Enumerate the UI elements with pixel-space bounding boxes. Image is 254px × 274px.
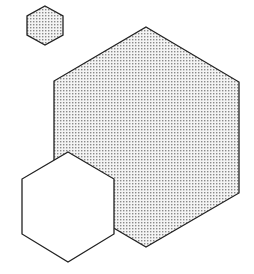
hexagon-diagram (0, 0, 254, 274)
small-dotted-hexagon (27, 6, 63, 45)
